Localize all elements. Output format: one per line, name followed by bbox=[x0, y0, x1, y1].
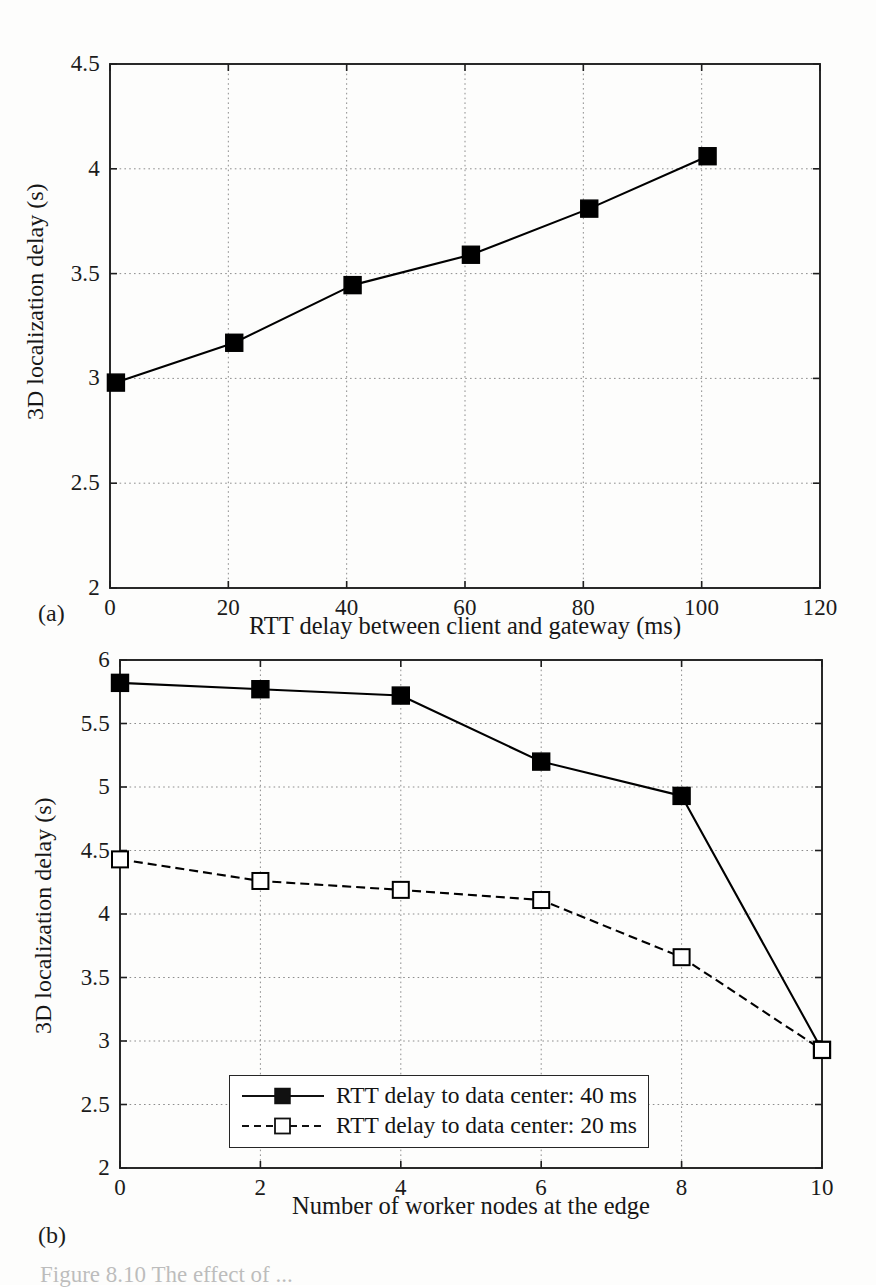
legend-item-series-1: RTT delay to data center: 40 ms bbox=[240, 1081, 636, 1111]
chart-b-legend: RTT delay to data center: 40 ms RTT dela… bbox=[229, 1075, 649, 1148]
legend-swatch-solid-filled-square bbox=[240, 1085, 326, 1107]
legend-swatch-dashed-open-square bbox=[240, 1115, 326, 1137]
chart-a-plot bbox=[0, 0, 876, 648]
legend-item-series-2: RTT delay to data center: 20 ms bbox=[240, 1111, 636, 1141]
chart-a-y-tick-2: 2 bbox=[22, 575, 100, 601]
figure-caption: Figure 8.10 The effect of ... bbox=[40, 1262, 293, 1288]
subfigure-label-b: (b) bbox=[38, 1222, 66, 1249]
chart-a-y-tick-4: 4 bbox=[22, 156, 100, 182]
chart-b-plot bbox=[0, 634, 876, 1274]
chart-b-y-tick-6: 6 bbox=[32, 647, 110, 673]
chart-a-y-tick-4.5: 4.5 bbox=[22, 51, 100, 77]
chart-b-y-axis-title: 3D localization delay (s) bbox=[30, 797, 57, 1034]
chart-panel-b: 22.533.544.555.560246810 3D localization… bbox=[0, 634, 876, 1274]
legend-label-series-1: RTT delay to data center: 40 ms bbox=[336, 1084, 637, 1108]
chart-b-y-tick-2.5: 2.5 bbox=[32, 1092, 110, 1118]
chart-b-y-tick-2: 2 bbox=[32, 1155, 110, 1181]
chart-b-x-axis-title: Number of worker nodes at the edge bbox=[120, 1192, 822, 1220]
chart-panel-a: 22.533.544.5020406080100120 3D localizat… bbox=[0, 0, 876, 648]
chart-b-y-tick-5.5: 5.5 bbox=[32, 711, 110, 737]
chart-b-y-tick-5: 5 bbox=[32, 774, 110, 800]
legend-label-series-2: RTT delay to data center: 20 ms bbox=[336, 1114, 637, 1138]
chart-a-y-axis-title: 3D localization delay (s) bbox=[22, 183, 49, 420]
subfigure-label-a: (a) bbox=[38, 600, 65, 627]
chart-a-y-tick-2.5: 2.5 bbox=[22, 470, 100, 496]
